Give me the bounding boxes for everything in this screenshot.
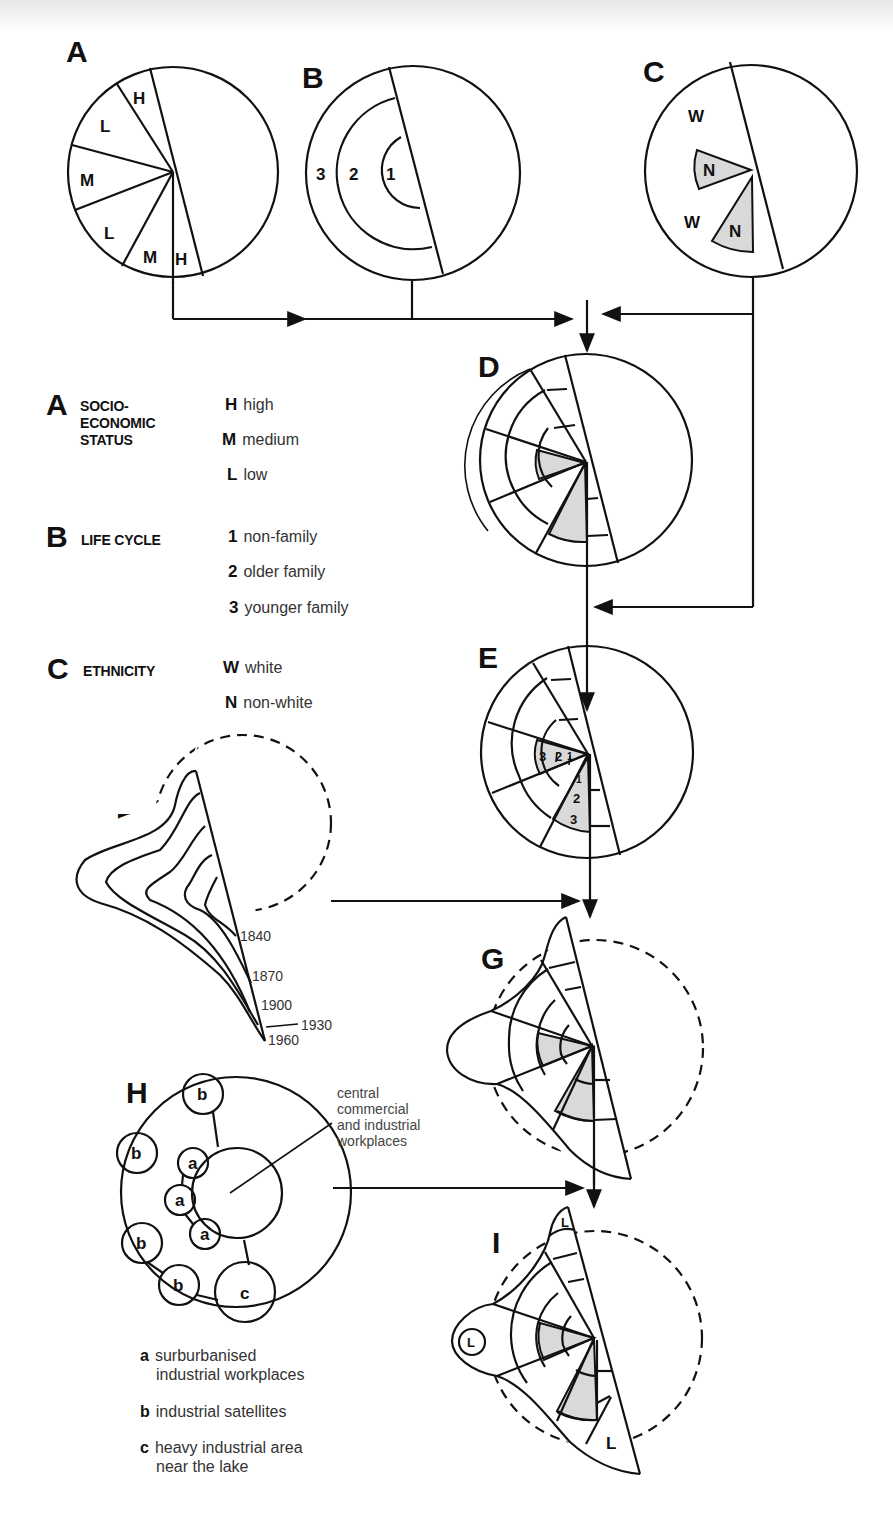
svg-text:1960: 1960 [268, 1032, 299, 1048]
legend-b-title: LIFE CYCLE [81, 532, 161, 549]
svg-text:N: N [703, 161, 715, 180]
legend-item: 2older family [228, 563, 325, 581]
svg-text:H: H [175, 250, 187, 269]
panel-g-sectoral-growth: G [333, 917, 703, 1207]
panel-b-label: B [302, 61, 324, 94]
node-b: b [183, 1074, 223, 1114]
node-c: c [215, 1262, 275, 1322]
node-a: a [165, 1185, 195, 1215]
svg-text:H: H [133, 89, 145, 108]
legend-item: 1non-family [228, 528, 317, 546]
h-callout-text: centralcommercialand industrialworkplace… [337, 1085, 420, 1149]
panel-e-combined-diagram: E 3 2 1 1 2 3 [478, 641, 693, 917]
svg-text:2: 2 [573, 791, 580, 806]
legend-item: Mmedium [222, 431, 299, 449]
svg-text:3: 3 [539, 749, 546, 764]
h-key-item-c: cheavy industrial areanear the lake [140, 1438, 303, 1476]
panel-g-label: G [481, 942, 504, 975]
panel-d-combined-diagram: D [465, 350, 692, 710]
svg-text:2: 2 [349, 165, 358, 184]
svg-text:1840: 1840 [240, 928, 271, 944]
svg-text:W: W [684, 213, 701, 232]
panel-e-label: E [478, 641, 498, 674]
legend-item: 3younger family [229, 599, 349, 617]
panel-c-label: C [643, 55, 665, 88]
h-key-item-a: asurburbanisedindustrial workplaces [140, 1346, 305, 1384]
panel-i-final-model: I L L L [452, 1207, 702, 1474]
svg-text:c: c [240, 1284, 249, 1303]
node-b: b [117, 1133, 157, 1173]
panel-h-multiple-nuclei: H b b b b a a a c [117, 1074, 351, 1322]
svg-text:L: L [467, 1335, 475, 1350]
svg-text:a: a [200, 1225, 210, 1244]
svg-text:L: L [104, 224, 114, 243]
svg-text:1930: 1930 [301, 1017, 332, 1033]
svg-text:2: 2 [555, 749, 562, 764]
svg-text:L: L [606, 1434, 616, 1453]
svg-text:L: L [100, 117, 110, 136]
svg-text:1870: 1870 [252, 968, 283, 984]
panel-f-growth-rings: F 1840 1870 1900 1930 1960 [77, 735, 579, 1048]
svg-text:M: M [143, 248, 157, 267]
panel-c-ethnic-diagram: C W N W N [643, 55, 857, 277]
h-key-item-b: bindustrial satellites [140, 1402, 287, 1421]
svg-text:3: 3 [316, 165, 325, 184]
legend-a-letter: A [46, 390, 68, 420]
panel-h-label: H [126, 1076, 148, 1109]
svg-text:3: 3 [570, 812, 577, 827]
legend-c-title: ETHNICITY [83, 663, 155, 680]
svg-text:N: N [729, 222, 741, 241]
legend-item: Hhigh [225, 396, 274, 414]
panel-d-label: D [478, 350, 500, 383]
legend-a-title: SOCIO-ECONOMICSTATUS [80, 398, 155, 449]
panel-i-label: I [492, 1226, 500, 1259]
diagram-canvas: A H L M L M H B 3 2 1 C W N W N [0, 0, 893, 1538]
legend-item: Llow [227, 466, 267, 484]
legend-c-letter: C [47, 654, 69, 684]
svg-text:1900: 1900 [261, 997, 292, 1013]
panel-b-concentric-diagram: B 3 2 1 [302, 61, 520, 280]
legend-item: Nnon-white [225, 694, 313, 712]
svg-text:L: L [561, 1215, 569, 1230]
svg-text:b: b [136, 1234, 146, 1253]
node-b: b [159, 1265, 199, 1305]
svg-text:1: 1 [576, 774, 582, 785]
svg-text:M: M [80, 171, 94, 190]
svg-text:1: 1 [386, 165, 395, 184]
panel-a-label: A [66, 35, 88, 68]
svg-text:b: b [173, 1276, 183, 1295]
svg-text:b: b [131, 1144, 141, 1163]
legend-item: Wwhite [223, 659, 282, 677]
svg-text:W: W [688, 107, 705, 126]
legend-b-letter: B [46, 522, 68, 552]
panel-a-sector-diagram: A H L M L M H [66, 35, 278, 283]
svg-text:b: b [197, 1085, 207, 1104]
svg-text:a: a [175, 1191, 185, 1210]
svg-text:1: 1 [567, 751, 573, 762]
svg-text:a: a [188, 1154, 198, 1173]
